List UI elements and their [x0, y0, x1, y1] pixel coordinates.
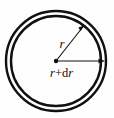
outer-radius-label-plus: + [55, 66, 62, 80]
diagram-canvas: r r+dr [0, 0, 114, 118]
annulus-diagram: r r+dr [0, 0, 114, 118]
center-point-dot [54, 59, 58, 63]
outer-radius-label-dr: r [68, 66, 73, 80]
outer-radius-label: r+dr [50, 66, 73, 80]
